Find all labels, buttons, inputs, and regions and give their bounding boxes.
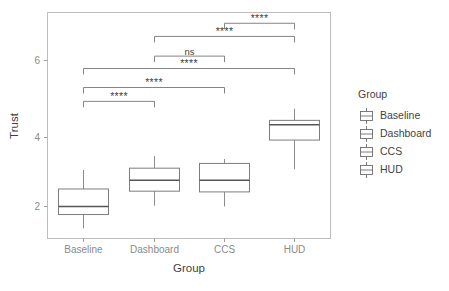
legend-label-ccs: CCS	[380, 145, 402, 157]
chart-svg: 6 4 2 Trust Baseline Dashboard CCS HUD G…	[0, 0, 449, 291]
boxplot-figure: 6 4 2 Trust Baseline Dashboard CCS HUD G…	[0, 0, 449, 291]
boxplot-series	[59, 109, 320, 229]
bracket-line	[155, 36, 295, 42]
legend-label-hud: HUD	[380, 163, 403, 175]
y-tick-label-4: 4	[34, 132, 40, 143]
significance-label: ****	[110, 90, 128, 102]
box-iqr	[59, 189, 109, 215]
significance-label: ns	[184, 46, 194, 57]
legend-item-dashboard[interactable]: Dashboard	[361, 126, 432, 142]
legend-key-icon	[361, 144, 373, 160]
legend-label-baseline: Baseline	[380, 109, 420, 121]
boxplot-baseline	[59, 170, 109, 228]
y-tick-label-6: 6	[34, 55, 40, 66]
legend-key-icon	[361, 162, 373, 178]
significance-label: ****	[145, 76, 163, 88]
box-iqr	[200, 163, 250, 191]
x-tick-label-dashboard: Dashboard	[130, 244, 179, 255]
legend-item-ccs[interactable]: CCS	[361, 144, 403, 160]
x-tick-label-hud: HUD	[284, 244, 306, 255]
legend-item-baseline[interactable]: Baseline	[361, 108, 421, 124]
y-tick-label-2: 2	[34, 201, 40, 212]
legend-title: Group	[358, 88, 387, 100]
y-axis-title: Trust	[8, 112, 20, 139]
bracket-baseline-dashboard: ****	[84, 90, 155, 108]
bracket-ccs-hud: ****	[225, 12, 295, 30]
box-iqr	[270, 120, 320, 140]
bracket-line	[84, 88, 225, 94]
bracket-line	[225, 23, 295, 29]
x-tick-label-ccs: CCS	[214, 244, 235, 255]
bracket-line	[84, 101, 155, 107]
significance-label: ****	[251, 12, 269, 24]
legend-key-icon	[361, 126, 373, 142]
boxplot-hud	[270, 109, 320, 170]
bracket-line	[84, 69, 295, 75]
boxplot-ccs	[200, 159, 250, 206]
legend-key-icon	[361, 108, 373, 124]
y-axis: 6 4 2	[34, 55, 47, 212]
legend-item-hud[interactable]: HUD	[361, 162, 404, 178]
bracket-baseline-ccs: ****	[84, 76, 225, 94]
x-axis: Baseline Dashboard CCS HUD	[64, 239, 305, 256]
x-axis-title: Group	[173, 262, 205, 274]
x-tick-label-baseline: Baseline	[64, 244, 103, 255]
bracket-baseline-hud: ****	[84, 57, 295, 75]
legend: Group Baseline Dashboard	[358, 88, 432, 178]
significance-label: ****	[180, 57, 198, 69]
boxplot-dashboard	[130, 156, 180, 206]
legend-label-dashboard: Dashboard	[380, 127, 432, 139]
significance-brackets: ************ns********	[84, 12, 295, 108]
